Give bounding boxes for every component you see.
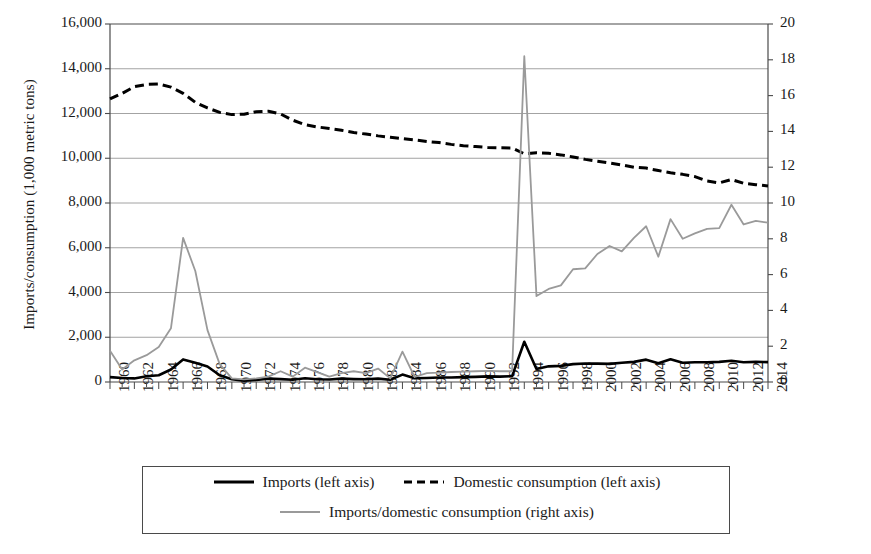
series-line [110, 84, 768, 186]
series-line [110, 56, 768, 379]
legend-label-domestic-consumption: Domestic consumption (left axis) [453, 473, 660, 491]
chart-figure: Imports/consumption (1,000 metric tons) … [0, 0, 871, 554]
chart-legend: Imports (left axis) Domestic consumption… [142, 466, 730, 534]
series-line [110, 342, 768, 381]
legend-row-bottom: Imports/domestic consumption (right axis… [143, 503, 729, 521]
legend-swatch-imports [212, 475, 256, 489]
legend-label-imports: Imports (left axis) [263, 473, 375, 491]
legend-entry-imports: Imports (left axis) [212, 473, 375, 491]
legend-swatch-imports-ratio [278, 505, 322, 519]
legend-entry-domestic-consumption: Domestic consumption (left axis) [402, 473, 660, 491]
legend-swatch-domestic-consumption [402, 475, 446, 489]
legend-row-top: Imports (left axis) Domestic consumption… [143, 473, 729, 491]
legend-label-imports-ratio: Imports/domestic consumption (right axis… [329, 503, 594, 521]
legend-entry-imports-ratio: Imports/domestic consumption (right axis… [278, 503, 594, 521]
